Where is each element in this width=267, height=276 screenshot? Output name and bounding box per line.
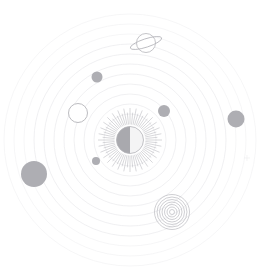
planet-right-edge: [228, 111, 245, 128]
planet-inner-small: [92, 157, 100, 165]
saturn-body: [137, 34, 156, 53]
planet-inner-right: [158, 105, 170, 117]
planet-upper-left: [92, 72, 103, 83]
sun-with-rays: [98, 108, 162, 172]
illustration-canvas: [0, 0, 267, 276]
cosmic-orbit-svg: [0, 0, 267, 276]
planet-hollow-ring: [69, 104, 88, 123]
planet-large-left: [21, 161, 47, 187]
